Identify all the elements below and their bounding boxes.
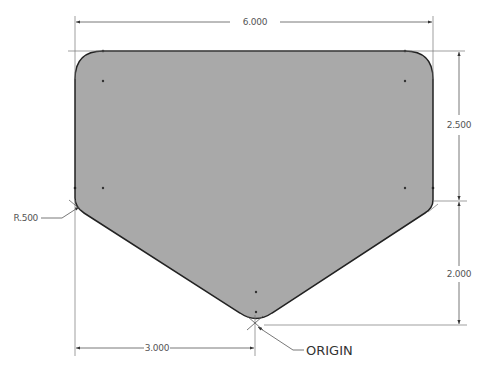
dimension-half-width: 3.000 <box>76 343 254 353</box>
dimension-text-2500: 2.500 <box>447 120 472 130</box>
dimension-text-radius: R.500 <box>14 213 39 223</box>
technical-drawing: 6.000 2.500 2.000 3.000 R.500 ORIGIN <box>0 0 500 380</box>
dimension-text-3000: 3.000 <box>145 343 170 353</box>
dimension-width-overall: 6.000 <box>76 17 432 27</box>
dimension-height-upper: 2.500 <box>447 52 472 200</box>
part-profile <box>75 51 433 319</box>
origin-label: ORIGIN <box>306 343 353 358</box>
dimension-radius: R.500 <box>14 200 81 223</box>
dimension-height-lower: 2.000 <box>447 202 472 324</box>
dimension-text-2000: 2.000 <box>447 269 472 279</box>
origin-callout: ORIGIN <box>258 327 353 358</box>
dimension-text-6000: 6.000 <box>243 17 268 27</box>
